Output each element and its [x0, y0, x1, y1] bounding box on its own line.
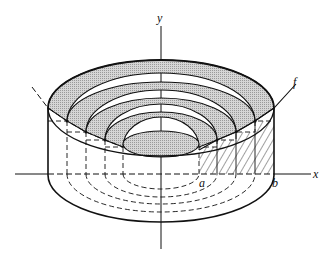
diagram-svg — [0, 0, 331, 265]
x-axis-label: x — [313, 168, 318, 180]
inner-disk — [123, 131, 199, 157]
b-label: b — [272, 177, 278, 189]
shell-method-diagram: y x f a b — [0, 0, 331, 265]
y-axis-label: y — [157, 12, 162, 24]
curve-f-label: f — [293, 76, 296, 88]
a-label: a — [199, 177, 205, 189]
